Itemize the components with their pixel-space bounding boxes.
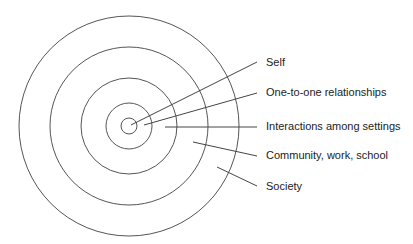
ring-self (121, 118, 137, 134)
label-community-work-school: Community, work, school (266, 149, 388, 161)
ring-society (19, 16, 239, 236)
label-society: Society (266, 180, 302, 192)
ring-interactions-among-settings (81, 78, 177, 174)
label-one-to-one-relationships: One-to-one relationships (266, 86, 386, 98)
ring-community-work-school (50, 47, 208, 205)
rings-group (19, 16, 239, 236)
label-self: Self (266, 56, 285, 68)
label-interactions-among-settings: Interactions among settings (266, 120, 401, 132)
ring-one-to-one-relationships (106, 103, 152, 149)
leader-line-1 (144, 93, 257, 125)
